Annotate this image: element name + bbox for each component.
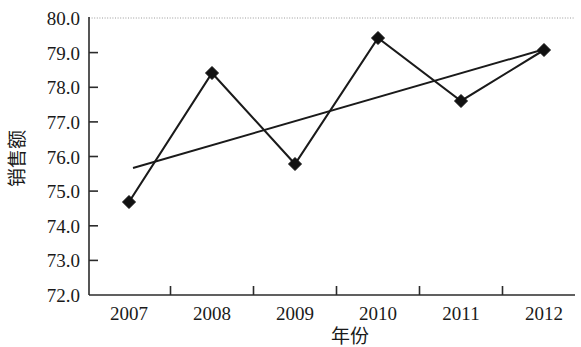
y-tick-label-78: 78.0 <box>47 77 80 98</box>
x-tick-label-2009: 2009 <box>276 303 314 324</box>
x-tick-label-2007: 2007 <box>110 303 148 324</box>
y-tick-label-80: 80.0 <box>47 8 80 29</box>
y-tick-label-76: 76.0 <box>47 147 80 168</box>
y-tick-label-75: 75.0 <box>47 181 80 202</box>
y-tick-label-79: 79.0 <box>47 43 80 64</box>
x-tick-label-2008: 2008 <box>193 303 231 324</box>
sales-line-chart: 80.0 79.0 78.0 77.0 76.0 75.0 74.0 73.0 … <box>0 0 581 347</box>
chart-canvas: 80.0 79.0 78.0 77.0 76.0 75.0 74.0 73.0 … <box>0 0 581 347</box>
y-tick-label-73: 73.0 <box>47 250 80 271</box>
y-tick-label-77: 77.0 <box>47 112 80 133</box>
x-tick-label-2011: 2011 <box>442 303 479 324</box>
y-tick-label-74: 74.0 <box>47 216 80 237</box>
y-tick-label-72: 72.0 <box>47 285 80 306</box>
x-axis-title: 年份 <box>331 326 369 347</box>
x-tick-label-2010: 2010 <box>359 303 397 324</box>
x-tick-label-2012: 2012 <box>525 303 563 324</box>
y-axis-title: 销售额 <box>7 130 28 187</box>
